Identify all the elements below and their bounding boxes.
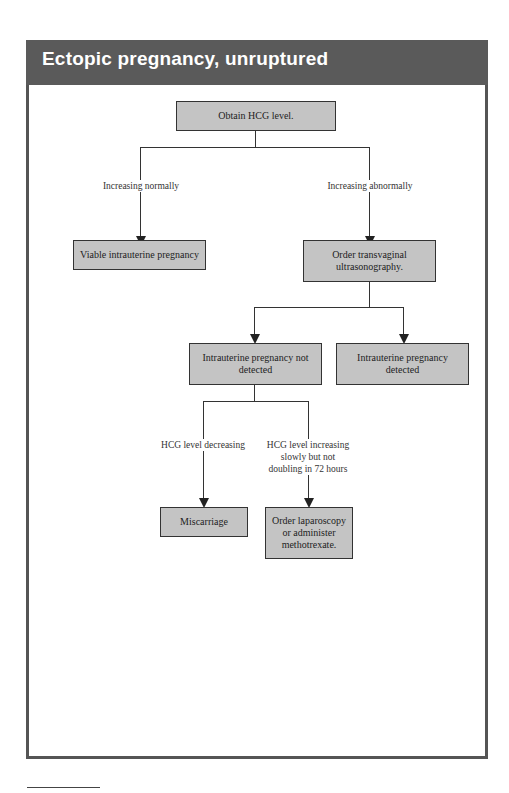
edge-label-increasing-abnormally: Increasing abnormally: [326, 180, 414, 192]
edge-label-increasing-normally: Increasing normally: [100, 180, 182, 192]
title-bar: Ectopic pregnancy, unruptured: [26, 40, 488, 85]
footnote-rule: [27, 787, 100, 788]
node-order-ultrasound: Order transvaginal ultrasonography.: [303, 240, 436, 282]
node-obtain-hcg: Obtain HCG level.: [176, 101, 336, 131]
node-iup-not-detected: Intrauterine pregnancy not detected: [189, 343, 322, 385]
edge-label-hcg-decreasing: HCG level decreasing: [160, 439, 246, 451]
edge-label-hcg-increasing-slowly: HCG level increasing slowly but not doub…: [265, 439, 351, 475]
connector: [140, 147, 370, 148]
connector: [369, 282, 370, 308]
connector: [369, 147, 370, 237]
connector: [140, 147, 141, 237]
node-iup-detected: Intrauterine pregnancy detected: [336, 343, 469, 385]
node-laparoscopy-methotrexate: Order laparoscopy or administer methotre…: [265, 507, 353, 559]
node-viable-pregnancy: Viable intrauterine pregnancy: [73, 240, 206, 270]
connector: [203, 401, 309, 402]
connector: [203, 401, 204, 501]
connector: [254, 307, 404, 308]
connector: [255, 131, 256, 147]
connector: [254, 385, 255, 401]
node-miscarriage: Miscarriage: [160, 507, 248, 537]
page-title: Ectopic pregnancy, unruptured: [42, 48, 328, 70]
